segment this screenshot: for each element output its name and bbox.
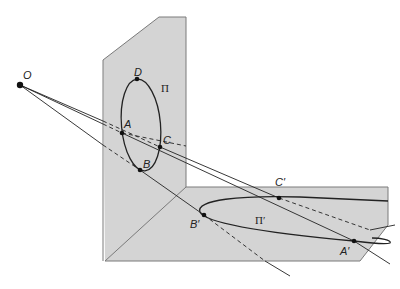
label-b-prime: B′ bbox=[190, 218, 200, 230]
label-d: D bbox=[134, 66, 142, 78]
point-b-prime bbox=[202, 213, 207, 218]
point-o bbox=[17, 82, 23, 88]
label-pi-prime: Π′ bbox=[255, 214, 265, 226]
label-a: A bbox=[123, 118, 131, 130]
point-c-prime bbox=[277, 196, 282, 201]
planes bbox=[103, 17, 388, 261]
label-c: C bbox=[163, 134, 171, 146]
label-b: B bbox=[143, 158, 150, 170]
projection-diagram: O D Π A C B C′ B′ Π′ A′ bbox=[0, 0, 400, 289]
label-a-prime: A′ bbox=[339, 245, 350, 257]
label-o: O bbox=[23, 69, 32, 81]
point-a bbox=[120, 131, 125, 136]
point-b bbox=[138, 168, 143, 173]
label-pi: Π bbox=[161, 82, 169, 94]
point-a-prime bbox=[352, 239, 357, 244]
point-c bbox=[158, 145, 163, 150]
label-c-prime: C′ bbox=[275, 176, 286, 188]
